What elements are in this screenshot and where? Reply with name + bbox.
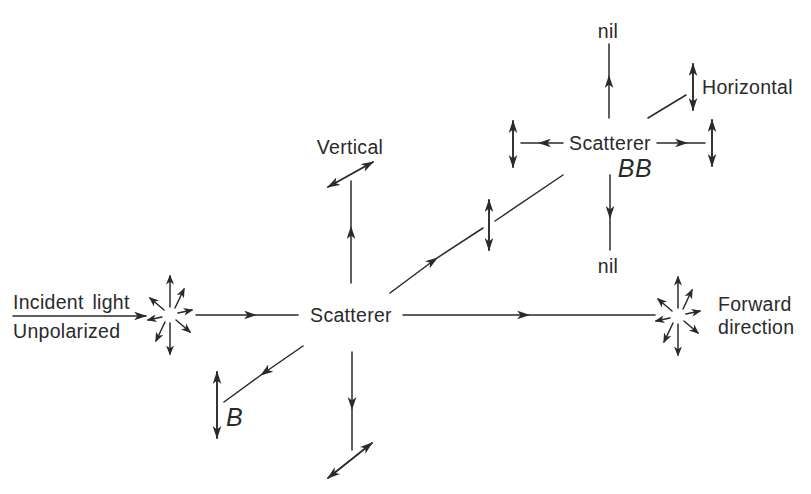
b-label: B (226, 403, 243, 431)
nil-top-label: nil (598, 20, 618, 42)
horizontal-label: Horizontal (702, 76, 793, 98)
unpolarized-starburst-icon (148, 276, 192, 354)
bb-label: BB (618, 154, 652, 182)
forward-direction-label-line2: direction (718, 316, 794, 338)
scattering-polarization-diagram: Incident light Unpolarized Scatterer For… (0, 0, 811, 494)
second-scatterer-diagonal-beam (648, 95, 686, 118)
second-scatterer-label: Scatterer (569, 132, 651, 154)
forward-direction-label-line1: Forward (718, 293, 792, 315)
vertical-label: Vertical (317, 136, 383, 158)
unpolarized-label: Unpolarized (13, 320, 120, 342)
incident-light-label: Incident light (13, 291, 130, 313)
downward-beam-polarization-arrow (328, 443, 372, 478)
diagonal-beam-down (224, 346, 303, 402)
diagonal-beam-up (390, 228, 483, 293)
forward-starburst-icon (656, 277, 700, 355)
diagonal-beam-up-continuation (495, 175, 563, 221)
nil-bottom-label: nil (598, 255, 618, 277)
diagram-canvas: Incident light Unpolarized Scatterer For… (0, 0, 811, 494)
main-scatterer-label: Scatterer (310, 304, 392, 326)
